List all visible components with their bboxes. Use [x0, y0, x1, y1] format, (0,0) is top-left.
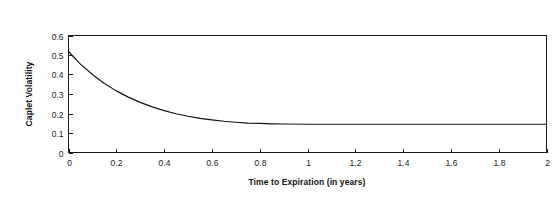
x-tick-label: 0.2 — [111, 158, 123, 168]
x-axis-title: Time to Expiration (in years) — [248, 177, 365, 187]
x-tick-label: 0.4 — [159, 158, 171, 168]
x-tick-label: 2 — [545, 158, 550, 168]
x-tick-label: 0.8 — [255, 158, 267, 168]
y-tick-label: 0.4 — [52, 70, 64, 80]
y-axis-title: Caplet Volatility — [24, 61, 34, 126]
y-tick-label: 0.5 — [52, 51, 64, 61]
x-tick-label: 1 — [306, 158, 311, 168]
y-tick-label: 0.3 — [52, 90, 64, 100]
x-tick-label: 1.2 — [350, 158, 362, 168]
x-tick-label: 1.6 — [446, 158, 458, 168]
y-tick-label: 0.1 — [52, 129, 64, 139]
x-tick-label: 0.6 — [207, 158, 219, 168]
caplet-volatility-line-chart: 00.10.20.30.40.50.6 00.20.40.60.811.21.4… — [0, 0, 559, 198]
chart-background — [0, 0, 559, 198]
chart-figure: Sample Caplet Volatility Term Structure … — [0, 0, 559, 198]
y-tick-label: 0 — [59, 149, 64, 159]
y-tick-label: 0.6 — [52, 32, 64, 42]
x-tick-label: 1.4 — [398, 158, 410, 168]
x-tick-label: 0 — [67, 158, 72, 168]
y-tick-label: 0.2 — [52, 110, 64, 120]
x-tick-label: 1.8 — [494, 158, 506, 168]
